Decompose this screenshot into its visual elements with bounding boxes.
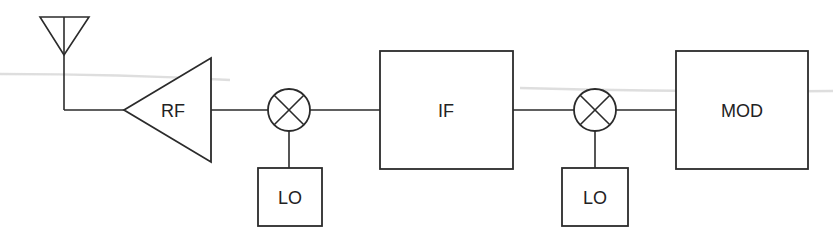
rf-label: RF — [161, 101, 185, 121]
mod-block: MOD — [676, 51, 808, 169]
mod-label: MOD — [721, 101, 763, 121]
lo2-label: LO — [583, 188, 607, 208]
if-label: IF — [438, 101, 454, 121]
mixer2-icon — [574, 89, 616, 131]
mixer1-icon — [268, 89, 310, 131]
lo2-block: LO — [562, 168, 628, 226]
receiver-block-diagram: RF LO IF LO MOD — [0, 0, 833, 239]
lo1-label: LO — [278, 188, 302, 208]
rf-amplifier-block: RF — [124, 58, 211, 162]
antenna-icon — [40, 17, 89, 110]
if-block: IF — [380, 51, 513, 169]
lo1-block: LO — [258, 168, 322, 226]
